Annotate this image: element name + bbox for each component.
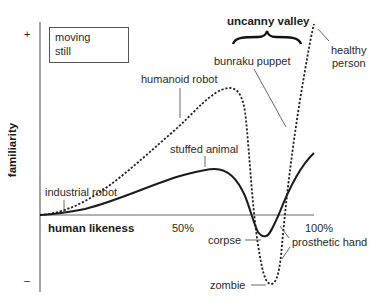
x-tick-50: 50%: [172, 222, 194, 234]
bunraku-puppet-leader: [254, 69, 286, 127]
y-axis-label-text: familiarity: [6, 123, 18, 177]
legend: moving still: [49, 27, 129, 63]
corpse-label: corpse: [208, 234, 241, 246]
zombie-label: zombie: [210, 279, 245, 291]
prosthetic-hand-leader-2: [282, 247, 290, 259]
uncanny-valley-title: uncanny valley: [227, 15, 309, 27]
legend-still-label: still: [55, 45, 71, 57]
legend-moving-label: moving: [55, 31, 90, 43]
industrial-robot-label: industrial robot: [45, 186, 117, 198]
healthy-person-leader: [318, 29, 329, 41]
x-tick-100: 100%: [305, 222, 333, 234]
prosthetic-hand-leader-1: [280, 226, 289, 238]
bunraku-puppet-label: bunraku puppet: [214, 55, 290, 67]
y-tick-minus: –: [24, 274, 30, 286]
stuffed-animal-label: stuffed animal: [170, 143, 238, 155]
y-axis-label: familiarity: [6, 110, 18, 190]
healthy-label: healthy: [331, 44, 366, 56]
y-tick-plus: +: [24, 28, 30, 40]
uncanny-valley-brace: [233, 31, 301, 44]
x-axis-label: human likeness: [48, 222, 134, 234]
humanoid-robot-label: humanoid robot: [141, 73, 217, 85]
prosthetic-hand-label: prosthetic hand: [292, 236, 367, 248]
person-label: person: [332, 57, 366, 69]
